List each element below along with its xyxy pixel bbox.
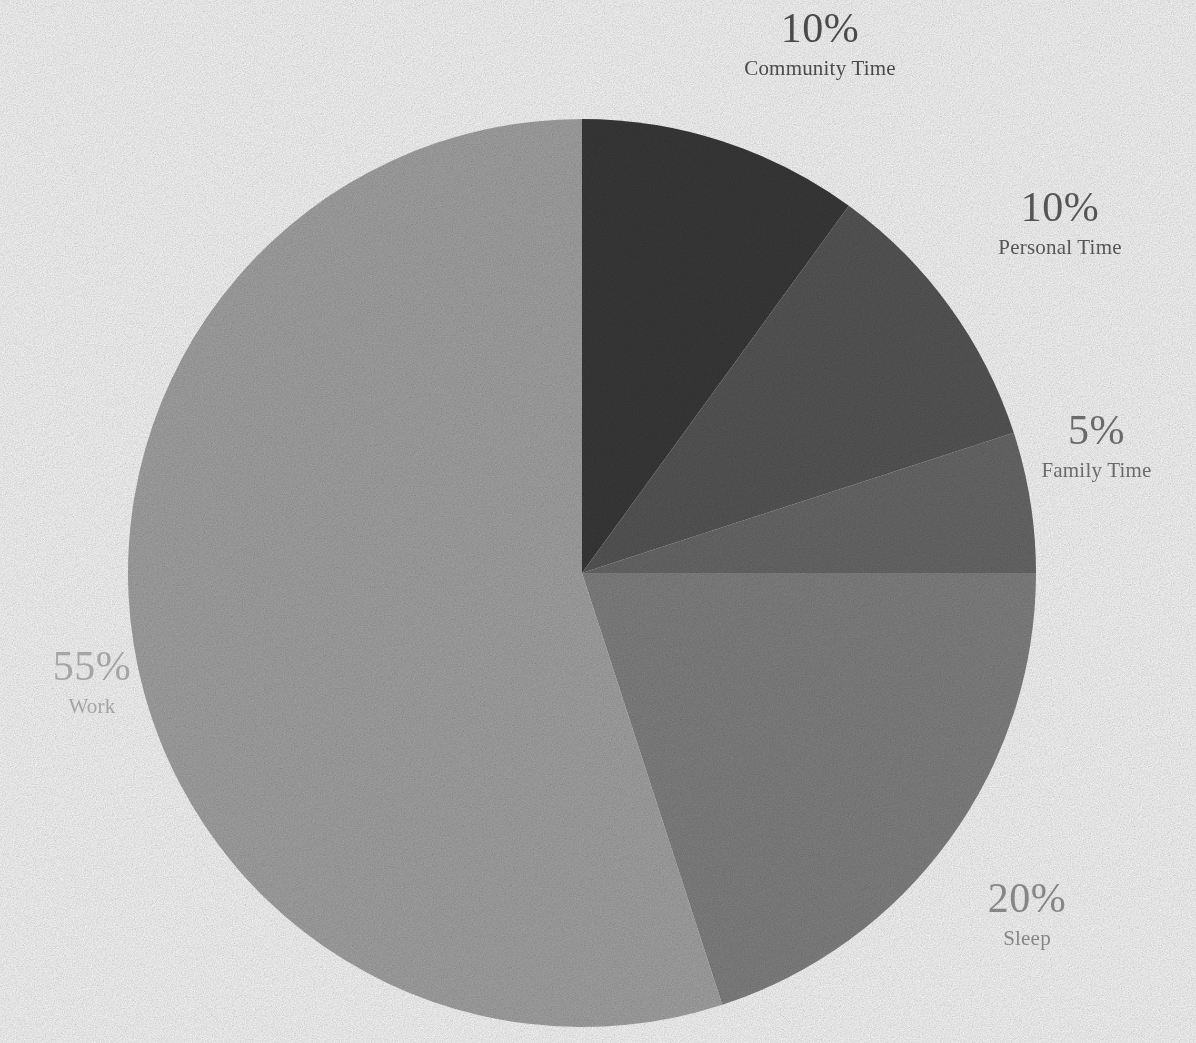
slice-label-family-time: 5% Family Time xyxy=(1000,408,1193,481)
slice-name-personal-time: Personal Time xyxy=(935,236,1185,258)
slice-name-community-time: Community Time xyxy=(660,57,980,79)
slice-percent-work: 55% xyxy=(0,644,192,688)
slice-name-work: Work xyxy=(0,695,192,717)
slice-percent-personal-time: 10% xyxy=(935,185,1185,229)
pie-slices xyxy=(128,119,1036,1027)
slice-percent-family-time: 5% xyxy=(1000,408,1193,452)
slice-percent-community-time: 10% xyxy=(660,6,980,50)
slice-label-personal-time: 10% Personal Time xyxy=(935,185,1185,258)
slice-name-family-time: Family Time xyxy=(1000,459,1193,481)
slice-label-work: 55% Work xyxy=(0,644,192,717)
slice-label-sleep: 20% Sleep xyxy=(912,876,1142,949)
pie-chart-page: 10% Community Time 10% Personal Time 5% … xyxy=(0,0,1196,1043)
slice-name-sleep: Sleep xyxy=(912,927,1142,949)
slice-label-community-time: 10% Community Time xyxy=(660,6,980,79)
pie-chart: 10% Community Time 10% Personal Time 5% … xyxy=(0,0,1196,1043)
slice-percent-sleep: 20% xyxy=(912,876,1142,920)
